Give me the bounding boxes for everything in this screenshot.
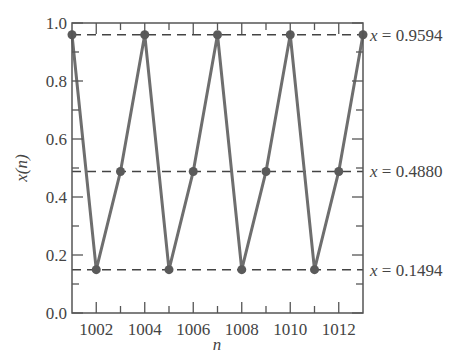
svg-text:x(n): x(n) <box>12 154 31 183</box>
y-tick-label: 0.2 <box>46 246 67 265</box>
reference-lines <box>72 35 363 270</box>
x-tick-label: 1002 <box>79 320 113 339</box>
data-point-marker <box>92 265 101 274</box>
x-tick-label: 1010 <box>273 320 307 339</box>
data-point-marker <box>262 167 271 176</box>
tick-labels: 1002100410061008101010120.00.20.40.60.81… <box>46 14 356 339</box>
x-tick-label: 1012 <box>322 320 356 339</box>
reference-line-label: x = 0.4880 <box>369 162 442 181</box>
data-point-marker <box>334 167 343 176</box>
y-tick-label: 0.6 <box>46 130 67 149</box>
data-point-marker <box>116 167 125 176</box>
y-tick-label: 0.0 <box>46 304 67 323</box>
x-tick-label: 1008 <box>225 320 259 339</box>
data-point-marker <box>189 167 198 176</box>
y-tick-label: 0.4 <box>46 188 68 207</box>
x-tick-label: 1006 <box>176 320 210 339</box>
period-3-orbit-chart: 1002100410061008101010120.00.20.40.60.81… <box>0 0 469 356</box>
annotations: x = 0.9594x = 0.4880x = 0.1494 <box>369 26 443 280</box>
reference-line-label: x = 0.9594 <box>369 26 443 45</box>
series-line <box>72 35 363 270</box>
y-tick-label: 1.0 <box>46 14 67 33</box>
data-series <box>68 30 368 274</box>
y-axis-label: x(n) <box>12 154 31 183</box>
data-point-marker <box>237 265 246 274</box>
data-point-marker <box>310 265 319 274</box>
x-tick-label: 1004 <box>128 320 163 339</box>
y-tick-label: 0.8 <box>46 72 67 91</box>
data-point-marker <box>213 30 222 39</box>
reference-line-label: x = 0.1494 <box>369 261 443 280</box>
x-axis-label: n <box>213 335 222 354</box>
data-point-marker <box>165 265 174 274</box>
